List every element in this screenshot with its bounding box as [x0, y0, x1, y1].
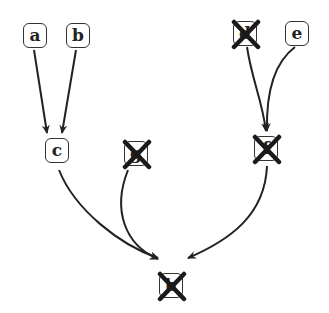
node-label: a	[29, 27, 40, 44]
node-a: a	[23, 23, 47, 48]
edge-e-f	[267, 47, 295, 131]
node-d: d	[233, 21, 257, 46]
edge-b-c	[62, 50, 76, 133]
node-label: d	[239, 25, 251, 42]
node-e: e	[285, 21, 309, 46]
edge-a-c	[34, 50, 47, 133]
edge-g-h	[121, 170, 158, 259]
node-label: g	[130, 145, 142, 162]
node-label: f	[262, 140, 269, 157]
node-b: b	[66, 23, 90, 48]
edge-c-h	[59, 170, 158, 258]
edge-d-f	[247, 47, 266, 131]
node-h: h	[159, 273, 183, 298]
edge-f-h	[188, 166, 267, 258]
node-c: c	[45, 138, 69, 163]
node-label: e	[292, 25, 303, 42]
node-f: f	[254, 136, 278, 161]
node-label: h	[165, 277, 177, 294]
node-label: c	[52, 142, 62, 159]
node-g: g	[124, 141, 148, 166]
node-label: b	[72, 27, 84, 44]
